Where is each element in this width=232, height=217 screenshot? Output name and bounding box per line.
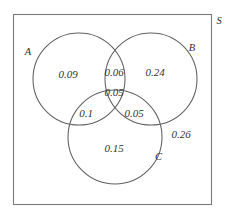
- region-value-a-only: 0.09: [58, 69, 77, 80]
- set-label-a: A: [25, 47, 31, 58]
- set-label-b: B: [189, 43, 195, 54]
- region-value-c-only: 0.15: [104, 143, 123, 154]
- venn-diagram-figure: S A B C 0.09 0.24 0.15 0.06 0.05 0.1 0.0…: [0, 0, 232, 217]
- region-value-outside: 0.26: [171, 129, 190, 140]
- universe-rectangle: [14, 15, 212, 205]
- region-value-a-and-c: 0.1: [79, 108, 93, 119]
- venn-diagram-canvas: [0, 0, 232, 217]
- universe-label-s: S: [216, 16, 221, 27]
- region-value-b-only: 0.24: [145, 67, 164, 78]
- set-label-c: C: [155, 152, 162, 163]
- region-value-a-and-b-and-c: 0.05: [104, 87, 123, 98]
- region-value-b-and-c: 0.05: [124, 108, 143, 119]
- region-value-a-and-b: 0.06: [104, 67, 123, 78]
